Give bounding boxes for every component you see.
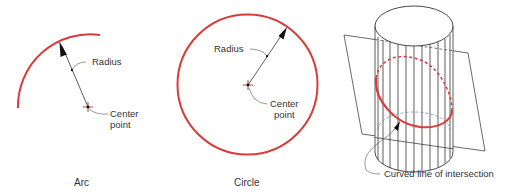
- arc-radius-leader: [72, 62, 86, 70]
- circle-center-point-marker: [243, 80, 253, 90]
- circle-radius-label: Radius: [214, 43, 244, 54]
- arc-caption: Arc: [74, 177, 89, 188]
- arc-radius-label: Radius: [92, 56, 122, 67]
- arc-curve: [18, 34, 100, 108]
- circle-center-label-line1: Center: [270, 98, 299, 109]
- arc-center-label-line1: Center: [110, 108, 139, 119]
- arc-center-label-line2: point: [110, 119, 131, 130]
- arc-center-leader: [89, 109, 108, 114]
- intersection-label: Curved line of intersection: [384, 168, 494, 179]
- circle-radius-line: [248, 33, 283, 85]
- circle-caption: Circle: [234, 177, 260, 188]
- circle-radius-leader: [250, 49, 267, 56]
- cylinder-top: [375, 6, 453, 46]
- arc-radius-line: [62, 46, 88, 107]
- diagram-canvas: [0, 0, 505, 196]
- cylinder-figure: [344, 6, 485, 174]
- arc-figure: [18, 34, 108, 114]
- circle-figure: [178, 15, 318, 155]
- circle-center-label-line2: point: [274, 109, 295, 120]
- circle-center-leader: [249, 88, 267, 104]
